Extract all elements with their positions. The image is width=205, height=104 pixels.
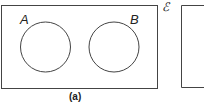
panel-a-caption: (a) [69, 91, 81, 102]
set-a-circle [21, 22, 71, 72]
set-a-label: A [19, 12, 29, 27]
set-b-circle [89, 22, 139, 72]
venn-diagram: A B (a) ℰ [0, 0, 204, 104]
universal-set-symbol: ℰ [162, 0, 171, 14]
universal-set-rectangle-b [182, 6, 205, 88]
set-b-label: B [130, 12, 139, 27]
